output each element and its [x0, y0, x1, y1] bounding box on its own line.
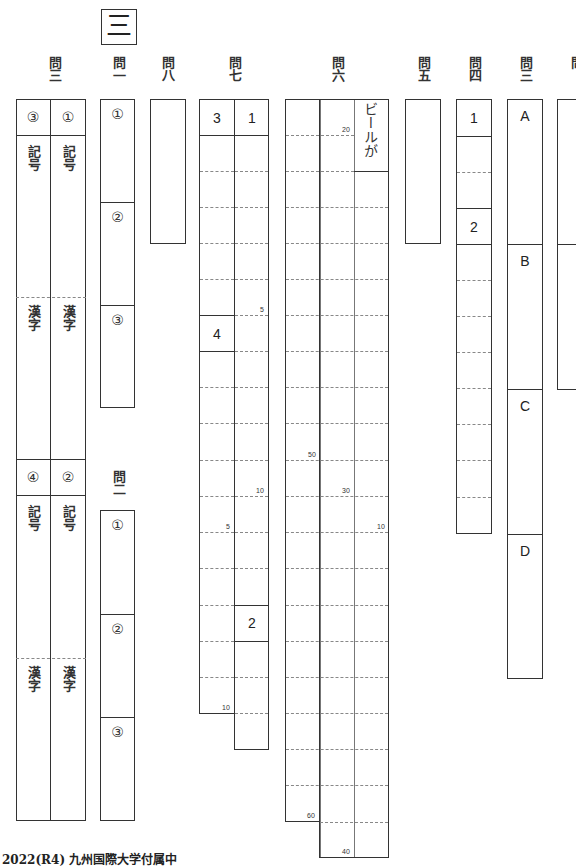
divider — [16, 135, 86, 136]
q7-count-10b: 10 — [222, 704, 230, 711]
q3-2-kigou-field[interactable]: 記号 — [61, 505, 75, 535]
q1-mark-2: ② — [100, 209, 135, 225]
divider — [100, 305, 135, 306]
divider — [199, 351, 235, 352]
q7-label-3: 3 — [200, 110, 234, 126]
divider — [100, 717, 135, 718]
q2-mark-3: ③ — [100, 724, 135, 740]
section-marker: 三 — [101, 9, 137, 45]
q4-label-2: 2 — [456, 219, 492, 235]
q3-mark-4: ④ — [16, 469, 50, 485]
divider — [199, 315, 235, 316]
q6-count-30: 30 — [342, 487, 350, 494]
q6-count-40: 40 — [342, 848, 350, 855]
q6-count-10: 10 — [377, 523, 385, 530]
heading-q8: 問八 — [155, 56, 179, 85]
q7-col-3-4[interactable] — [199, 99, 235, 714]
q8-answer-box[interactable] — [150, 99, 186, 244]
q3-label-d: D — [507, 543, 543, 559]
heading-q1: 問一 — [106, 56, 130, 85]
q6-prefilled-text: ビールが — [362, 102, 377, 161]
q2-mark-2: ② — [100, 621, 135, 637]
q5-answer-box[interactable] — [405, 99, 441, 244]
divider — [16, 459, 86, 460]
q7-count-5: 5 — [260, 306, 264, 313]
q3-label-a: A — [507, 108, 543, 124]
heading-q5: 問五 — [411, 56, 435, 85]
q4-label-1: 1 — [456, 110, 492, 126]
heading-q6: 問六 — [325, 56, 349, 85]
q3-4-kigou-field[interactable]: 記号 — [26, 505, 40, 535]
q6-count-50: 50 — [308, 451, 316, 458]
q3-mark-3: ③ — [16, 109, 50, 125]
q7-label-4: 4 — [200, 326, 234, 342]
q3-mark-1: ① — [51, 109, 85, 125]
heading-cut: 問 — [564, 56, 576, 72]
divider — [354, 171, 389, 172]
q3-left-answer-grid — [16, 99, 86, 821]
q3-1-kanji-field[interactable]: 漢字 — [61, 305, 75, 335]
q1-mark-3: ③ — [100, 312, 135, 328]
q7-count-10: 10 — [256, 487, 264, 494]
q7-col-1-2[interactable] — [234, 99, 269, 750]
divider — [16, 297, 86, 298]
q3-3-kanji-field[interactable]: 漢字 — [26, 305, 40, 335]
heading-q3-left: 問三 — [42, 56, 66, 85]
divider — [100, 202, 135, 203]
heading-q2: 問二 — [106, 470, 130, 499]
divider — [100, 614, 135, 615]
q7-label-1: 1 — [235, 110, 269, 126]
q3-2-kanji-field[interactable]: 漢字 — [61, 666, 75, 696]
footer-school: 2022(R4) 九州国際大学付属中 — [2, 850, 177, 867]
q6-count-60: 60 — [307, 812, 315, 819]
q1-answer-box[interactable] — [100, 99, 135, 408]
q2-mark-1: ① — [100, 517, 135, 533]
divider — [16, 658, 86, 659]
q1-mark-1: ① — [100, 106, 135, 122]
divider — [50, 99, 51, 821]
q6-count-20: 20 — [342, 126, 350, 133]
q3-3-kigou-field[interactable]: 記号 — [26, 145, 40, 175]
divider — [234, 641, 269, 642]
heading-q3-right: 問三 — [513, 56, 537, 85]
heading-q4: 問四 — [462, 56, 486, 85]
q7-label-2: 2 — [235, 615, 269, 631]
divider — [234, 605, 269, 606]
divider — [16, 495, 86, 496]
q3-label-b: B — [507, 253, 543, 269]
q7-count-5b: 5 — [226, 523, 230, 530]
q3-mark-2: ② — [51, 469, 85, 485]
q3-4-kanji-field[interactable]: 漢字 — [26, 666, 40, 696]
q3-label-c: C — [507, 398, 543, 414]
q3-1-kigou-field[interactable]: 記号 — [61, 145, 75, 175]
heading-q7: 問七 — [222, 56, 246, 85]
q2-answer-box[interactable] — [100, 510, 135, 821]
divider — [199, 135, 269, 136]
